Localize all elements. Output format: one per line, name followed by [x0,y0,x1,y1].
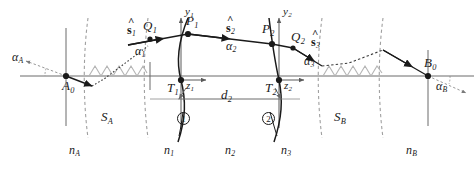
label-axis-z2: z2 [284,80,292,93]
dot-B0 [425,73,431,79]
label-point-T1: T1 [167,81,179,97]
ray-P2-to-Q2 [272,44,293,48]
label-angle-alpha-2: α2 [226,40,236,54]
slab-SA-boundaries [84,18,148,138]
alpha-A-arc [45,69,46,77]
label-index-n1: n1 [164,144,174,158]
label-point-Q1: Q1 [143,19,157,35]
label-index-n3: n3 [281,144,291,158]
label-unit-vector-s3: ^ s3 [311,36,320,50]
label-angle-alpha-A: αA [12,51,23,65]
wave-SB [323,66,382,76]
ray-slabB-to-B0 [383,50,428,76]
dot-Q2 [290,45,295,50]
label-index-n2: n2 [225,144,235,158]
label-angle-alpha-1: α1 [135,45,145,59]
label-slab-SB: SB [334,110,346,126]
ray-inside-slabB [322,50,383,66]
optical-ray-diagram: A0 Q1 P1 P2 Q2 T1 T2 B0 y1 z1 y2 z2 ^ s1… [0,0,474,169]
label-unit-vector-s2: ^ s2 [226,22,235,36]
label-point-Q2: Q2 [291,30,305,46]
slab-SB-boundaries [318,18,383,138]
label-thickness-d2: d2 [221,88,232,104]
dot-Q1 [147,36,152,41]
label-point-T2: T2 [265,81,277,97]
label-index-nB: nB [406,144,417,158]
circumflex-s3: ^ [312,28,318,39]
point-markers [63,31,431,83]
label-point-A0: A0 [62,79,74,95]
label-angle-alpha-3: α3 [304,55,314,69]
label-surface-number-1: 1 [177,112,190,125]
label-surface-number-2: 2 [262,112,275,125]
slab-SB-right-boundary [379,18,383,138]
label-slab-SA: SA [101,110,113,126]
wave-SA [89,66,147,76]
alpha-B-arc [449,76,450,84]
auxiliary-incoming-ray [26,61,66,76]
label-angle-alpha-B: αB [436,80,447,94]
dot-T2 [276,77,282,83]
label-axis-y2: y2 [283,6,292,19]
label-axis-y1: y1 [185,6,194,19]
circumflex-s2: ^ [227,14,233,25]
dot-P2 [269,41,275,47]
label-point-B0: B0 [424,56,436,72]
dot-P1 [185,31,191,37]
dot-T1 [178,77,184,83]
slab-SA-right-boundary [144,18,148,138]
label-unit-vector-s1: ^ s1 [127,24,136,38]
label-index-nA: nA [69,144,80,158]
slab-SA-left-boundary [84,18,88,138]
label-axis-z1: z1 [186,80,194,93]
label-point-P2: P2 [262,22,274,38]
circumflex-s1: ^ [128,16,134,27]
